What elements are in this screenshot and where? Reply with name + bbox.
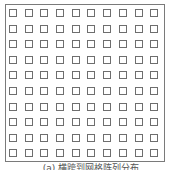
grid-square (103, 134, 111, 142)
grid-square (9, 149, 17, 157)
grid-square (72, 103, 80, 111)
grid-square (103, 103, 111, 111)
grid-square (150, 9, 158, 17)
grid-square (119, 149, 127, 157)
grid-square (119, 9, 127, 17)
grid-square (40, 134, 48, 142)
grid-square (56, 9, 64, 17)
grid-square (25, 118, 33, 126)
figure-frame (5, 4, 165, 162)
grid-square (40, 25, 48, 33)
grid-square (87, 56, 95, 64)
grid-square (150, 149, 158, 157)
grid-square (25, 103, 33, 111)
grid-square (25, 40, 33, 48)
square-array-grid (9, 9, 158, 157)
grid-square (56, 71, 64, 79)
grid-square (40, 56, 48, 64)
grid-square (72, 40, 80, 48)
grid-square (135, 118, 143, 126)
grid-square (150, 71, 158, 79)
grid-square (119, 134, 127, 142)
grid-square (150, 25, 158, 33)
grid-square (25, 71, 33, 79)
grid-square (87, 134, 95, 142)
grid-square (135, 25, 143, 33)
grid-square (103, 9, 111, 17)
grid-square (25, 149, 33, 157)
figure-caption: (a) 横跨到网格阵列分布 (0, 163, 182, 170)
grid-square (135, 40, 143, 48)
grid-square (135, 87, 143, 95)
grid-square (56, 87, 64, 95)
grid-square (72, 9, 80, 17)
grid-square (87, 103, 95, 111)
grid-square (25, 134, 33, 142)
grid-square (87, 25, 95, 33)
grid-square (87, 118, 95, 126)
grid-square (135, 149, 143, 157)
grid-square (135, 103, 143, 111)
grid-square (9, 56, 17, 64)
grid-square (119, 56, 127, 64)
grid-square (56, 25, 64, 33)
grid-square (72, 149, 80, 157)
grid-square (119, 71, 127, 79)
grid-square (25, 56, 33, 64)
grid-square (40, 118, 48, 126)
grid-square (135, 56, 143, 64)
grid-square (9, 9, 17, 17)
grid-square (40, 71, 48, 79)
grid-square (9, 103, 17, 111)
grid-square (150, 134, 158, 142)
grid-square (150, 56, 158, 64)
grid-square (150, 118, 158, 126)
grid-square (56, 149, 64, 157)
grid-square (56, 40, 64, 48)
grid-square (56, 56, 64, 64)
grid-square (25, 87, 33, 95)
grid-square (150, 40, 158, 48)
grid-square (87, 87, 95, 95)
grid-square (9, 25, 17, 33)
grid-square (72, 56, 80, 64)
grid-square (119, 40, 127, 48)
grid-square (103, 87, 111, 95)
grid-square (135, 71, 143, 79)
grid-square (103, 56, 111, 64)
grid-square (9, 118, 17, 126)
grid-square (150, 103, 158, 111)
grid-square (72, 118, 80, 126)
grid-square (103, 118, 111, 126)
grid-square (40, 149, 48, 157)
grid-square (135, 9, 143, 17)
grid-square (25, 9, 33, 17)
grid-square (135, 134, 143, 142)
grid-square (103, 25, 111, 33)
grid-square (72, 25, 80, 33)
grid-square (9, 40, 17, 48)
grid-square (56, 134, 64, 142)
grid-square (119, 118, 127, 126)
grid-square (119, 87, 127, 95)
grid-square (103, 40, 111, 48)
grid-square (103, 71, 111, 79)
grid-square (72, 71, 80, 79)
grid-square (9, 87, 17, 95)
grid-square (119, 103, 127, 111)
grid-square (72, 87, 80, 95)
grid-square (25, 25, 33, 33)
grid-square (40, 103, 48, 111)
grid-square (40, 40, 48, 48)
grid-square (40, 87, 48, 95)
grid-square (56, 118, 64, 126)
grid-square (119, 25, 127, 33)
grid-square (103, 149, 111, 157)
grid-square (87, 71, 95, 79)
grid-square (72, 134, 80, 142)
grid-square (9, 71, 17, 79)
grid-square (56, 103, 64, 111)
grid-square (9, 134, 17, 142)
grid-square (87, 149, 95, 157)
grid-square (87, 40, 95, 48)
